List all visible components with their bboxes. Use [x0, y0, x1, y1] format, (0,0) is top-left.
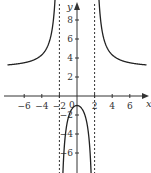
y-tick-label: 2 — [67, 72, 73, 82]
x-tick-label: 4 — [109, 101, 115, 111]
right-branch-curve — [95, 0, 146, 65]
x-axis-label: x — [146, 98, 151, 109]
y-tick-label: −6 — [60, 148, 74, 158]
x-tick-label: −6 — [18, 101, 32, 111]
x-tick-label: −4 — [35, 101, 49, 111]
y-tick-label: 8 — [67, 15, 73, 25]
y-tick-label: 6 — [67, 34, 73, 44]
y-tick-label: 4 — [67, 53, 73, 63]
x-tick-label: 6 — [127, 101, 133, 111]
y-axis-arrow-icon — [74, 2, 80, 10]
y-axis-label: y — [66, 1, 73, 12]
graph: xy0−6−4−22468642−2−4−6 — [0, 0, 151, 173]
left-branch-curve — [7, 0, 58, 65]
